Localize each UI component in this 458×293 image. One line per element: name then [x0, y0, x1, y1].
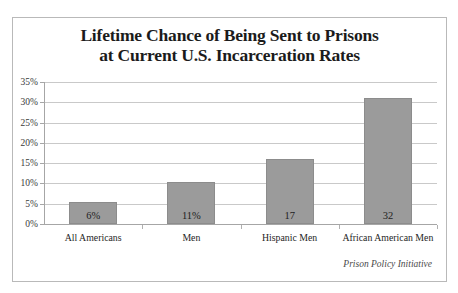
- category-label: Men: [142, 232, 240, 243]
- x-axis-separator: [241, 225, 242, 229]
- y-axis-tick-mark: [40, 204, 44, 205]
- bar-value-label: 32: [365, 210, 411, 221]
- plot-area: 0%5%10%15%20%25%30%35% 6%11%1732 All Ame…: [44, 82, 437, 224]
- y-axis-tick-label: 15%: [21, 158, 38, 168]
- y-axis-tick-mark: [40, 183, 44, 184]
- category-label: Hispanic Men: [241, 232, 339, 243]
- chart-title: Lifetime Chance of Being Sent to Prisons…: [13, 26, 446, 65]
- chart-title-line-1: Lifetime Chance of Being Sent to Prisons: [13, 26, 446, 46]
- y-axis-tick-label: 30%: [21, 97, 38, 107]
- chart-title-line-2: at Current U.S. Incarceration Rates: [13, 46, 446, 66]
- y-axis-tick-mark: [40, 224, 44, 225]
- x-axis-separator: [142, 225, 143, 229]
- y-axis-tick-label: 5%: [25, 199, 38, 209]
- gridline: [45, 82, 437, 83]
- y-axis-tick-mark: [40, 143, 44, 144]
- bar-value-label: 17: [267, 210, 313, 221]
- y-axis-tick-label: 25%: [21, 118, 38, 128]
- y-axis-tick-label: 10%: [21, 178, 38, 188]
- y-axis-tick-mark: [40, 82, 44, 83]
- category-label: African American Men: [339, 232, 437, 243]
- y-axis-tick-mark: [40, 102, 44, 103]
- y-axis-tick-label: 20%: [21, 138, 38, 148]
- attribution-label: Prison Policy Initiative: [343, 259, 432, 269]
- bar[interactable]: 11%: [167, 182, 215, 224]
- y-axis-tick-mark: [40, 163, 44, 164]
- y-axis-tick-mark: [40, 123, 44, 124]
- y-axis-tick-label: 0%: [25, 219, 38, 229]
- bar-value-label: 6%: [70, 210, 116, 221]
- bar-value-label: 11%: [168, 210, 214, 221]
- bar[interactable]: 6%: [69, 202, 117, 224]
- y-axis-tick-label: 35%: [21, 77, 38, 87]
- bar[interactable]: 32: [364, 98, 412, 224]
- x-axis-separator: [339, 225, 340, 229]
- bar[interactable]: 17: [266, 159, 314, 224]
- x-axis-separator: [437, 225, 438, 229]
- category-label: All Americans: [44, 232, 142, 243]
